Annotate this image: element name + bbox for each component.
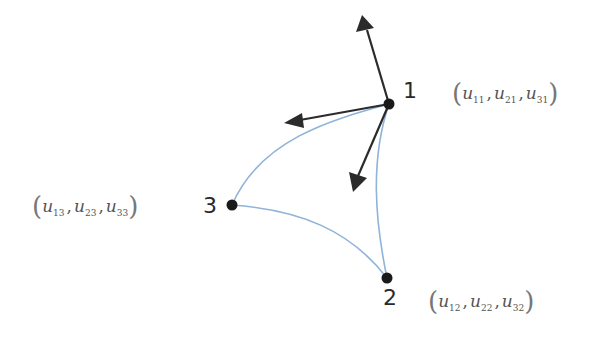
close-paren: ) xyxy=(128,191,138,221)
arrow-left xyxy=(284,104,389,128)
node-1-triple: (u11,u21,u31) xyxy=(452,80,558,106)
node-3 xyxy=(227,200,238,211)
node-2-triple: (u12,u22,u32) xyxy=(428,288,534,314)
arrowhead-up-icon xyxy=(356,15,374,32)
open-paren: ( xyxy=(32,191,42,221)
open-paren: ( xyxy=(428,286,438,316)
close-paren: ) xyxy=(548,78,558,108)
arrow-down-left xyxy=(349,104,389,192)
arrowhead-left-icon xyxy=(284,113,304,128)
node-2 xyxy=(382,273,393,284)
node-3-triple: (u13,u23,u33) xyxy=(32,193,138,219)
open-paren: ( xyxy=(452,78,462,108)
edge-3-2 xyxy=(232,205,387,278)
close-paren: ) xyxy=(524,286,534,316)
node-1 xyxy=(384,99,395,110)
node-1-label: 1 xyxy=(403,80,417,102)
arrowhead-down-left-icon xyxy=(349,172,367,192)
node-3-label: 3 xyxy=(203,195,217,217)
node-2-label: 2 xyxy=(383,287,397,309)
arrow-up xyxy=(356,15,389,104)
